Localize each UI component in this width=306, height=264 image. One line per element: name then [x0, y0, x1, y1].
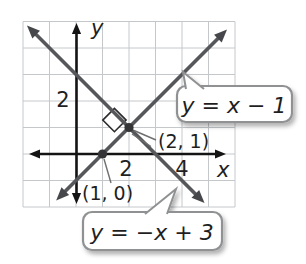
- point-2-1: [124, 123, 133, 132]
- y-axis-arrowhead: [72, 23, 81, 34]
- graph-svg: y x 2 2 4 (2, 1) (1, 0) y = x − 1 y = −x…: [0, 0, 306, 264]
- leader-line: [104, 159, 111, 183]
- callout-text-line2: y = −x + 3: [89, 220, 213, 245]
- callout-tail-line2: [145, 189, 176, 214]
- callout-text-line1: y = x − 1: [181, 93, 287, 118]
- point-1-0: [98, 149, 107, 158]
- y-axis-label: y: [90, 16, 104, 40]
- y-axis-arrowhead: [72, 193, 81, 204]
- x-tick-label-2: 2: [119, 157, 132, 181]
- x-tick-label-4: 4: [175, 157, 188, 181]
- y-tick-label-2: 2: [56, 88, 69, 112]
- x-axis-arrowhead: [29, 149, 40, 158]
- point-label-2-1: (2, 1): [158, 130, 209, 152]
- x-axis-label: x: [216, 158, 230, 182]
- point-label-1-0: (1, 0): [82, 182, 133, 204]
- graph-figure: y x 2 2 4 (2, 1) (1, 0) y = x − 1 y = −x…: [0, 0, 306, 264]
